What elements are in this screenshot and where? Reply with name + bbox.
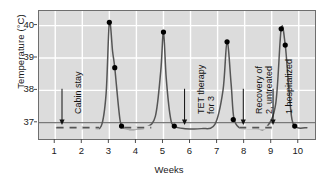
x-tick-10: 10: [289, 145, 307, 156]
x-axis-tick-labels: 12345678910: [0, 0, 323, 184]
x-axis-title: Weeks: [139, 164, 199, 175]
chart-figure: Temperature (°C) 37383940 Cabin stayTET …: [0, 0, 323, 184]
x-tick-5: 5: [153, 145, 171, 156]
x-tick-4: 4: [126, 145, 144, 156]
x-tick-6: 6: [181, 145, 199, 156]
x-tick-1: 1: [45, 145, 63, 156]
x-tick-9: 9: [262, 145, 280, 156]
x-tick-8: 8: [235, 145, 253, 156]
x-tick-2: 2: [72, 145, 90, 156]
x-tick-7: 7: [208, 145, 226, 156]
x-tick-3: 3: [99, 145, 117, 156]
